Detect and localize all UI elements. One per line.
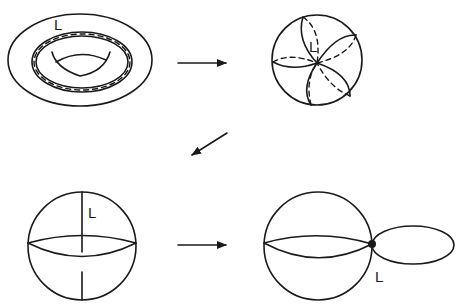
- wedge-sphere-figure: L: [264, 192, 454, 300]
- petal-sphere-label: L: [309, 38, 317, 55]
- petal-sphere-figure: L: [272, 15, 362, 105]
- meridian-sphere-figure: L: [28, 192, 136, 300]
- diagram-canvas: L L L L: [0, 0, 474, 308]
- arrow-down-left-icon: [192, 133, 227, 155]
- torus-label: L: [54, 16, 62, 33]
- wedge-sphere-label: L: [375, 268, 383, 285]
- meridian-sphere-label: L: [88, 204, 96, 221]
- torus-figure: L: [8, 14, 152, 106]
- wedge-point: [368, 240, 376, 248]
